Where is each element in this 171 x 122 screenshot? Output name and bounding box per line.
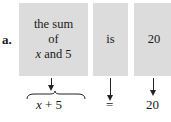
expression-result: x + 5: [36, 97, 62, 113]
expr-rest: + 5: [42, 97, 62, 112]
equals-sign: =: [106, 97, 113, 113]
phrase-box-is: is: [93, 3, 128, 76]
phrase-line-1: the sum: [34, 17, 73, 32]
phrase-line-3-rest: and 5: [41, 47, 72, 61]
phrase-is-text: is: [106, 32, 114, 47]
part-label: a.: [2, 32, 12, 48]
phrase-box-sum: the sum of x and 5: [19, 3, 88, 76]
down-arrow-icon: [110, 78, 111, 96]
phrase-box-value: 20: [134, 3, 171, 76]
value-result: 20: [146, 97, 159, 113]
phrase-line-2: of: [48, 32, 58, 47]
phrase-value-text: 20: [148, 32, 161, 47]
phrase-line-3: x and 5: [35, 47, 71, 62]
arrow-head-icon: [150, 90, 156, 96]
